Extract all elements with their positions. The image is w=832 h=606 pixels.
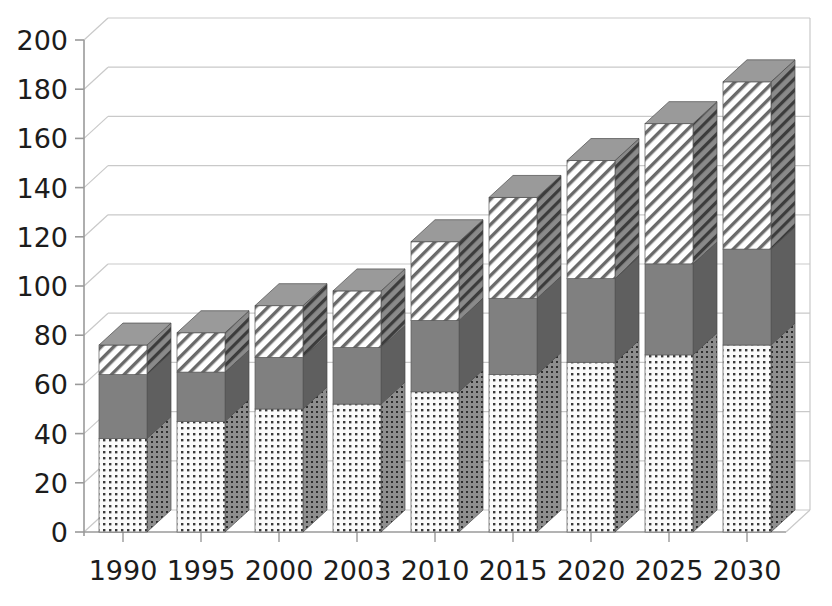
- x-tick-label: 2010: [401, 555, 470, 586]
- segment-dotted-side: [771, 323, 795, 532]
- bar-column: [645, 102, 717, 532]
- gridline-depth: [84, 313, 108, 335]
- segment-hatched-front: [99, 345, 147, 375]
- segment-hatched-front: [723, 82, 771, 249]
- bar-column: [255, 284, 327, 532]
- segment-solid-front: [723, 249, 771, 345]
- segment-solid-front: [567, 279, 615, 363]
- segment-solid-front: [255, 357, 303, 409]
- x-tick-label: 2003: [323, 555, 392, 586]
- bar-column: [99, 323, 171, 532]
- x-tick-label: 2030: [713, 555, 782, 586]
- y-tick-labels: 020406080100120140160180200: [16, 25, 68, 548]
- segment-solid-front: [489, 298, 537, 374]
- bar-column: [567, 139, 639, 532]
- segment-hatched-front: [645, 124, 693, 264]
- segment-dotted-side: [615, 340, 639, 532]
- x-tick-label: 2015: [479, 555, 548, 586]
- bar-column: [489, 175, 561, 532]
- x-tick-label: 2025: [635, 555, 704, 586]
- bars-group: [99, 60, 795, 532]
- gridline-depth: [84, 264, 108, 286]
- bar-column: [177, 311, 249, 532]
- segment-solid-front: [99, 375, 147, 439]
- segment-hatched-front: [333, 291, 381, 348]
- segment-hatched-front: [489, 197, 537, 298]
- gridline-depth: [84, 166, 108, 188]
- gridline-depth: [84, 18, 108, 40]
- segment-dotted-side: [459, 370, 483, 532]
- segment-hatched-front: [177, 333, 225, 372]
- y-tick-label: 40: [34, 419, 68, 450]
- segment-dotted-front: [255, 409, 303, 532]
- segment-dotted-front: [177, 421, 225, 532]
- segment-dotted-front: [723, 345, 771, 532]
- bar-column: [411, 220, 483, 532]
- segment-dotted-front: [411, 392, 459, 532]
- y-tick-label: 180: [16, 74, 68, 105]
- gridline-depth: [84, 67, 108, 89]
- segment-dotted-side: [303, 387, 327, 532]
- segment-solid-front: [177, 372, 225, 421]
- segment-solid-front: [333, 348, 381, 405]
- x-tick-label: 2020: [557, 555, 626, 586]
- segment-dotted-front: [333, 404, 381, 532]
- y-tick-label: 60: [34, 369, 68, 400]
- x-tick-label: 2000: [245, 555, 314, 586]
- segment-dotted-side: [381, 382, 405, 532]
- segment-dotted-front: [645, 355, 693, 532]
- y-tick-label: 200: [16, 25, 68, 56]
- y-tick-label: 80: [34, 320, 68, 351]
- y-tick-label: 0: [51, 517, 68, 548]
- bar-column: [723, 60, 795, 532]
- y-tick-label: 120: [16, 222, 68, 253]
- segment-hatched-front: [567, 161, 615, 279]
- y-tick-label: 20: [34, 468, 68, 499]
- chart-canvas: 020406080100120140160180200 199019952000…: [0, 0, 832, 606]
- segment-hatched-side: [693, 102, 717, 264]
- y-tick-label: 100: [16, 271, 68, 302]
- segment-hatched-side: [615, 139, 639, 279]
- gridline-depth: [84, 116, 108, 138]
- gridline-depth: [84, 215, 108, 237]
- segment-dotted-side: [225, 399, 249, 532]
- x-tick-labels: 199019952000200320102015202020252030: [89, 555, 782, 586]
- stacked-bar-chart: 020406080100120140160180200 199019952000…: [0, 0, 832, 606]
- segment-dotted-front: [99, 439, 147, 532]
- x-tick-label: 1990: [89, 555, 158, 586]
- segment-solid-front: [411, 320, 459, 391]
- segment-solid-front: [645, 264, 693, 355]
- segment-dotted-front: [489, 375, 537, 532]
- x-tick-label: 1995: [167, 555, 236, 586]
- y-tick-label: 160: [16, 123, 68, 154]
- y-tick-label: 140: [16, 173, 68, 204]
- segment-dotted-front: [567, 362, 615, 532]
- segment-dotted-side: [537, 353, 561, 532]
- segment-hatched-front: [255, 306, 303, 358]
- segment-hatched-front: [411, 242, 459, 321]
- segment-dotted-side: [693, 333, 717, 532]
- bar-column: [333, 269, 405, 532]
- segment-hatched-side: [771, 60, 795, 249]
